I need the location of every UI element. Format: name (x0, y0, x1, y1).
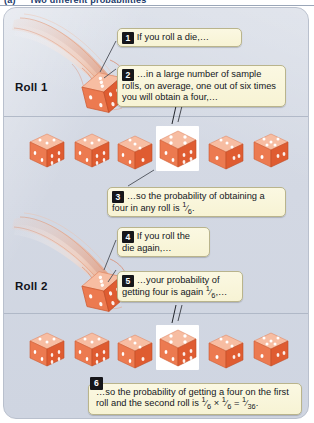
callout-3-badge: 3 (112, 191, 124, 203)
roll-1-die-6[interactable] (252, 132, 290, 170)
callout-6-f3-den: 36 (247, 402, 255, 411)
callout-6-text-before: …so the probability of getting a four on… (96, 387, 289, 408)
callout-1-content: 1If you roll a die,… (122, 32, 236, 44)
callout-6-fraction-3: 1⁄36 (242, 398, 256, 408)
roll-2-die-1[interactable] (28, 331, 66, 369)
section-divider-bottom (4, 313, 309, 314)
roll-1-die-2[interactable] (73, 132, 111, 170)
callout-5-fraction: 1⁄6 (206, 287, 216, 297)
callout-6: …so the probability of getting a four on… (88, 383, 302, 415)
callout-3-text-after: . (192, 203, 195, 213)
roll-2-label: Roll 2 (15, 280, 48, 292)
callout-2-badge: 2 (122, 69, 134, 81)
figure-header-strip: (a) Two different probabilities (0, 0, 314, 7)
callout-2-text: …in a large number of sample rolls, on a… (122, 69, 276, 102)
callout-6-f3-num: 1 (242, 396, 246, 405)
callout-5-content: 5…your probability of getting four is ag… (122, 275, 237, 298)
roll-1-die-1[interactable] (28, 132, 66, 170)
callout-3: 3…so the probability of obtaining a four… (107, 187, 286, 217)
callout-6-fraction-1: 1⁄6 (201, 398, 211, 408)
callout-3-fraction: 1⁄6 (182, 203, 192, 213)
callout-4: 4If you roll the die again,… (117, 227, 210, 257)
roll-1-die-5[interactable] (207, 134, 245, 172)
callout-5-numerator: 1 (206, 284, 210, 293)
callout-1-text: If you roll a die,… (137, 32, 209, 42)
callout-3-numerator: 1 (182, 200, 186, 209)
callout-6-f2-num: 1 (222, 396, 226, 405)
roll-2-die-3[interactable] (116, 333, 154, 371)
callout-6-text-after: . (256, 398, 259, 408)
roll-1-label: Roll 1 (15, 81, 48, 93)
callout-3-content: 3…so the probability of obtaining a four… (112, 191, 280, 214)
header-rule (0, 5, 314, 6)
callout-6-f1-num: 1 (201, 396, 205, 405)
callout-6-badge: 6 (90, 377, 103, 390)
callout-6-times: × (211, 398, 222, 408)
callout-2-content: 2…in a large number of sample rolls, on … (122, 69, 280, 104)
callout-6-equals: = (231, 398, 242, 408)
roll-1-die-4-highlighted[interactable] (158, 129, 198, 169)
roll-2-die-4-highlighted[interactable] (158, 328, 198, 368)
callout-2: 2…in a large number of sample rolls, on … (117, 65, 286, 107)
callout-4-content: 4If you roll the die again,… (122, 231, 204, 254)
callout-1: 1If you roll a die,… (117, 28, 242, 47)
figure-panel: Roll 1 (3, 7, 309, 419)
callout-6-content: …so the probability of getting a four on… (96, 387, 296, 410)
callout-1-badge: 1 (122, 32, 134, 44)
roll-2-die-6[interactable] (252, 331, 290, 369)
callout-6-fraction-2: 1⁄6 (222, 398, 232, 408)
roll-2-die-2[interactable] (73, 331, 111, 369)
callout-5: 5…your probability of getting four is ag… (117, 271, 243, 302)
callout-5-text-after: ,… (215, 287, 227, 297)
roll-2-die-5[interactable] (207, 333, 245, 371)
callout-4-badge: 4 (122, 231, 134, 243)
section-divider-top (4, 116, 309, 117)
callout-5-badge: 5 (122, 275, 134, 287)
roll-1-die-3[interactable] (116, 134, 154, 172)
